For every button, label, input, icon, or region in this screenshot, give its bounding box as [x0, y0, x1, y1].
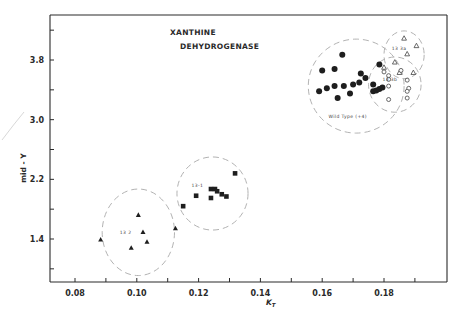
data-point-open-circle — [405, 96, 409, 100]
data-point-open-triangle — [405, 51, 410, 55]
data-point-open-triangle — [402, 36, 407, 40]
data-point-filled-circle — [350, 82, 356, 88]
data-point-filled-square — [209, 196, 214, 201]
x-tick-label: 0.08 — [65, 289, 85, 298]
data-point-filled-square — [224, 194, 229, 199]
tick-labels: 0.080.100.120.140.160.181.42.23.03.8 — [30, 56, 394, 298]
data-point-filled-square — [194, 193, 199, 198]
data-point-filled-circle — [362, 75, 368, 81]
data-point-filled-circle — [347, 91, 353, 97]
data-point-filled-circle — [324, 85, 330, 91]
y-tick-label: 2.2 — [30, 175, 44, 184]
data-point-filled-circle — [316, 88, 322, 94]
data-point-filled-circle — [332, 66, 338, 72]
data-point-filled-circle — [319, 67, 325, 73]
data-point-filled-square — [181, 204, 186, 209]
group-label: 13 2 — [120, 230, 132, 235]
group-boundary-circle — [102, 189, 174, 276]
data-point-filled-circle — [376, 61, 382, 67]
x-axis-label-sub: T — [272, 302, 277, 308]
data-point-filled-triangle — [144, 239, 149, 244]
ticks — [50, 30, 415, 282]
data-point-filled-circle — [339, 52, 345, 58]
data-point-filled-square — [219, 192, 224, 197]
data-point-open-circle — [399, 68, 403, 72]
group-label: 13 3b — [382, 77, 397, 82]
data-point-filled-circle — [356, 79, 362, 85]
group-boundary-circle — [369, 57, 422, 112]
x-tick-label: 0.18 — [374, 289, 394, 298]
data-point-filled-triangle — [129, 245, 134, 250]
x-tick-label: 0.12 — [189, 289, 209, 298]
data-point-filled-square — [215, 189, 220, 194]
data-point-open-circle — [405, 78, 409, 82]
group-label: 13 3a — [392, 46, 407, 51]
scatter-chart: 0.080.100.120.140.160.181.42.23.03.8 Wil… — [0, 0, 461, 319]
data-point-open-triangle — [382, 65, 387, 69]
x-tick-label: 0.10 — [127, 289, 147, 298]
stray-arc-decoration — [2, 112, 24, 140]
data-point-open-circle — [405, 89, 409, 93]
data-point-filled-triangle — [98, 237, 103, 242]
y-tick-label: 1.4 — [30, 235, 45, 244]
group-circles — [102, 31, 424, 276]
y-axis-label: mid - Y — [19, 153, 28, 183]
x-tick-label: 0.16 — [312, 289, 332, 298]
data-points — [98, 36, 419, 250]
data-point-filled-triangle — [136, 212, 141, 217]
data-point-filled-triangle — [173, 226, 178, 231]
group-label: Wild Type (+4) — [328, 114, 367, 119]
group-boundary-circle — [177, 157, 248, 230]
data-point-open-circle — [387, 84, 391, 88]
data-point-filled-triangle — [140, 229, 145, 234]
group-label: 13-1 — [191, 183, 203, 188]
data-point-filled-circle — [370, 82, 376, 88]
x-axis-label: KT — [266, 298, 277, 308]
y-tick-label: 3.8 — [30, 56, 45, 65]
chart-title-line-2: DEHYDROGENASE — [180, 42, 259, 51]
data-point-open-circle — [387, 98, 391, 102]
data-point-filled-circle — [379, 85, 385, 91]
chart-title-line-1: XANTHINE — [170, 28, 216, 37]
data-point-filled-circle — [335, 95, 341, 101]
data-point-filled-circle — [332, 83, 338, 89]
x-tick-label: 0.14 — [251, 289, 271, 298]
data-point-open-triangle — [411, 70, 416, 74]
y-tick-label: 3.0 — [30, 116, 45, 125]
data-point-open-triangle — [414, 43, 419, 47]
data-point-filled-square — [209, 187, 214, 192]
data-point-filled-square — [233, 171, 238, 176]
data-point-open-circle — [382, 70, 386, 74]
data-point-filled-circle — [341, 83, 347, 89]
data-point-filled-circle — [358, 70, 364, 76]
axes — [50, 15, 447, 282]
